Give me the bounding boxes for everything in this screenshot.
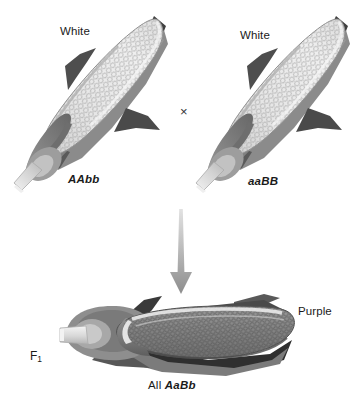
- parent-right-cob-illustration: [190, 4, 360, 194]
- corn-cross-figure: White AAbb ×: [0, 0, 362, 404]
- parent-right-phenotype-label: White: [240, 30, 270, 42]
- f1-genotype-prefix: All: [148, 379, 165, 391]
- parent-left-phenotype-label: White: [60, 26, 90, 38]
- down-arrow-icon: [164, 208, 198, 298]
- f1-genotype-value: AaBb: [165, 379, 196, 391]
- f1-cob-illustration: [58, 288, 308, 384]
- f1-phenotype-label: Purple: [298, 306, 332, 318]
- f1-generation-label: F1: [30, 350, 42, 362]
- cross-symbol: ×: [180, 104, 188, 119]
- parent-left-cob-illustration: [8, 4, 178, 194]
- parent-left-genotype-label: AAbb: [68, 174, 99, 186]
- f1-generation-subscript: 1: [37, 354, 42, 364]
- parent-right-genotype-label: aaBB: [248, 176, 278, 188]
- f1-genotype-label: All AaBb: [148, 380, 196, 392]
